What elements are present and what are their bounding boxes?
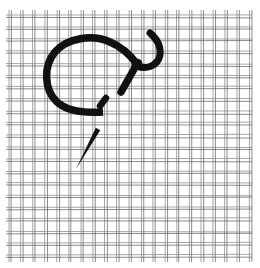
- mesh-canvas-grid: [6, 10, 252, 262]
- mesh-thread: [6, 195, 252, 196]
- needle-icon: [76, 128, 100, 169]
- canvas-mesh-drawing: [0, 0, 260, 268]
- thread-dash: [100, 98, 106, 106]
- mesh-thread: [6, 66, 252, 67]
- thread-knot: [132, 59, 143, 70]
- mesh-thread: [6, 158, 252, 159]
- mesh-thread: [6, 17, 252, 18]
- mesh-thread: [6, 64, 252, 65]
- mesh-thread: [6, 147, 252, 148]
- mesh-thread: [6, 41, 252, 42]
- stitch-illustration: Needle and thread forming a looped stitc…: [0, 0, 260, 268]
- mesh-thread: [6, 134, 252, 135]
- mesh-thread: [6, 231, 252, 232]
- mesh-thread: [6, 233, 252, 234]
